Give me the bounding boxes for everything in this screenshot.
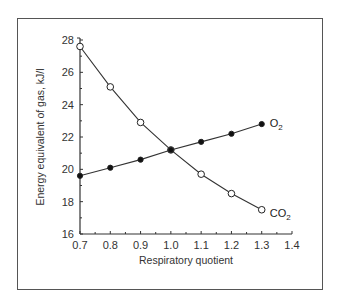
filled-circle-marker [77,173,82,178]
filled-circle-marker [138,157,143,162]
line-chart: 161820222426280.70.80.91.01.11.21.31.4 C… [0,0,340,306]
x-tick-label: 1.1 [193,239,208,251]
x-tick-label: 1.3 [254,239,269,251]
axes: 161820222426280.70.80.91.01.11.21.31.4 [62,34,300,251]
filled-circle-marker [259,121,264,126]
series-co2: CO2 [77,43,292,222]
y-tick-label: 26 [62,66,74,78]
series-group: CO2O2 [77,43,292,222]
open-circle-marker [258,206,265,213]
series-label-o2: O2 [270,117,284,132]
series-o2: O2 [77,117,283,178]
open-circle-marker [137,119,144,126]
x-axis-title: Respiratory quotient [139,254,233,266]
filled-circle-marker [168,147,173,152]
y-tick-label: 24 [62,99,74,111]
y-axis-title: Energy equivalent of gas, kJ/l [34,68,46,205]
filled-circle-marker [199,139,204,144]
x-tick-label: 1.4 [284,239,299,251]
open-circle-marker [107,84,114,91]
x-tick-label: 0.7 [72,239,87,251]
y-tick-label: 28 [62,34,74,46]
series-label-co2: CO2 [270,207,292,222]
x-tick-label: 0.8 [103,239,118,251]
x-tick-label: 1.0 [163,239,178,251]
open-circle-marker [77,43,84,50]
y-tick-label: 22 [62,131,74,143]
y-tick-label: 18 [62,196,74,208]
x-tick-label: 0.9 [133,239,148,251]
x-tick-label: 1.2 [224,239,239,251]
series-line [80,46,262,209]
filled-circle-marker [229,131,234,136]
filled-circle-marker [108,165,113,170]
open-circle-marker [198,171,205,178]
open-circle-marker [228,190,235,197]
y-tick-label: 20 [62,163,74,175]
